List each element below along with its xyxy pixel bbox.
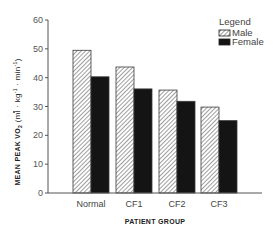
y-tick-label: 40 <box>33 73 43 83</box>
x-tick-label: Normal <box>76 199 105 209</box>
x-tick-label: CF3 <box>210 199 227 209</box>
x-axis-title: PATIENT GROUP <box>125 218 185 225</box>
y-tick-label: 60 <box>33 15 43 25</box>
y-tick-label: 0 <box>38 188 43 198</box>
bars-group <box>73 50 237 193</box>
y-tick-label: 30 <box>33 102 43 112</box>
y-axis-title: MEAN PEAK VO2 (ml · kg-1 · min-1) <box>12 58 23 185</box>
bar-male-normal <box>73 50 91 193</box>
y-tick-label: 20 <box>33 130 43 140</box>
legend: LegendMaleFemale <box>219 16 264 47</box>
bar-chart: 0102030405060NormalCF1CF2CF3PATIENT GROU… <box>0 0 274 236</box>
bar-female-cf3 <box>219 121 237 193</box>
y-tick-label: 10 <box>33 159 43 169</box>
bar-male-cf1 <box>116 67 134 193</box>
legend-swatch-male <box>219 30 230 36</box>
y-tick-label: 50 <box>33 44 43 54</box>
bar-male-cf3 <box>201 107 219 193</box>
x-tick-label: CF1 <box>125 199 142 209</box>
legend-title: Legend <box>219 16 251 27</box>
bar-female-cf1 <box>134 89 152 193</box>
legend-label-female: Female <box>232 36 264 47</box>
bar-female-cf2 <box>177 101 195 193</box>
dot-accent <box>13 111 15 113</box>
bar-male-cf2 <box>159 90 177 193</box>
legend-swatch-female <box>219 39 230 45</box>
x-tick-label: CF2 <box>168 199 185 209</box>
bar-female-normal <box>91 77 109 193</box>
